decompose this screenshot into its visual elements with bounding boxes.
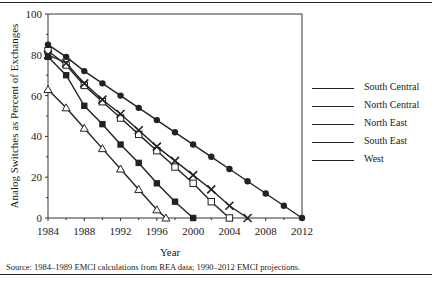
plot-frame xyxy=(48,14,302,218)
y-tick-label: 0 xyxy=(37,212,43,224)
y-tick-label: 80 xyxy=(31,49,43,61)
y-tick-label: 20 xyxy=(31,171,43,183)
source-note: Source: 1984–1989 EMCI calculations from… xyxy=(6,262,300,272)
series-line xyxy=(48,57,193,218)
x-tick-label: 1988 xyxy=(73,225,96,237)
bottom-rule xyxy=(0,274,432,275)
x-axis-label: Year xyxy=(160,246,180,258)
x-tick-label: 2000 xyxy=(182,225,205,237)
y-tick-label: 60 xyxy=(31,90,43,102)
y-axis-label: Analog Switches as Percent of Exchanges xyxy=(8,6,20,226)
x-tick-label: 1984 xyxy=(37,225,60,237)
x-tick-label: 2008 xyxy=(255,225,278,237)
y-tick-label: 100 xyxy=(26,8,43,20)
y-tick-label: 40 xyxy=(31,130,43,142)
x-tick-label: 2004 xyxy=(218,225,241,237)
x-tick-label: 1992 xyxy=(110,225,132,237)
x-tick-label: 2012 xyxy=(291,225,313,237)
x-tick-label: 1996 xyxy=(146,225,169,237)
